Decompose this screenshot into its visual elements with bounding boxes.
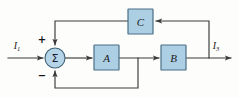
block-a-label: A [102,52,110,64]
minus-sign: − [38,70,46,81]
summing-junction-sigma: Σ [52,52,59,65]
input-signal-label: I1 [13,40,21,52]
diagram-canvas: Σ + − A B C I1 I3 [0,0,239,98]
output-signal-subscript: 3 [215,45,220,52]
input-signal-subscript: 1 [17,45,20,52]
block-b-label: B [170,52,177,64]
output-signal-label: I3 [212,40,220,52]
plus-sign: + [38,34,46,45]
wire-c-to-sum-plus [55,21,128,45]
block-diagram: Σ + − A B C I1 I3 [0,0,239,98]
block-c-label: C [137,16,145,28]
